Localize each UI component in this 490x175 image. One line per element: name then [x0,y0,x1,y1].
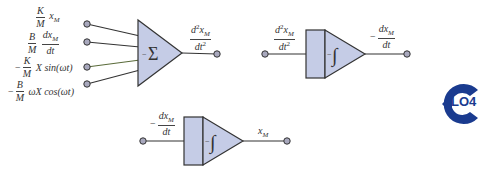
summer-input-wire-1 [87,24,140,36]
summer-input-node-4[interactable] [84,81,90,87]
summer-input-label-2: BM dxMdt [28,30,59,56]
summer-input-node-1[interactable] [84,21,90,27]
summer-output-node[interactable] [214,51,220,57]
summer-output-label: d2xMdt2 [190,24,211,53]
integrator2-input-node[interactable] [140,138,146,144]
lo4-badge-label: LO4 [451,94,476,109]
integrator2-output-node[interactable] [284,138,290,144]
summer-input-wire-3 [87,60,140,67]
integrator1-input-node[interactable] [262,51,268,57]
summer-input-wire-2 [87,42,140,47]
integrator2-capacitor-block [184,117,203,165]
summer-input-wire-4 [87,70,140,84]
summer-input-label-3: −KM X sin(ωt) [15,56,73,79]
summer-input-node-2[interactable] [84,39,90,45]
integrator2-input-label: −dxMdt [150,111,175,137]
integrator1-capacitor-block [306,30,325,78]
integrator1-input-label: d2xMdt2 [274,24,295,53]
summer-input-node-3[interactable] [84,64,90,70]
summer-input-label-4: −BM ωX cos(ωt) [8,80,74,103]
summer-input-label-1: KM xM [36,6,59,29]
integrator1-output-node[interactable] [404,51,410,57]
integrator2-output-label: xM [258,126,268,139]
sigma-icon: Σ [148,44,158,64]
integrator1-output-label: −dxMdt [370,24,395,50]
summer-sign: − [142,50,147,59]
summer-output-wire [182,53,217,54]
